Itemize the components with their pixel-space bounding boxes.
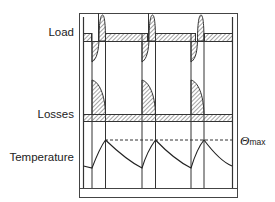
duty-cycle-diagram: Load Losses Temperature Θmax (0, 0, 275, 202)
temperature-label: Temperature (0, 151, 74, 163)
load-row (83, 13, 233, 188)
losses-label: Losses (0, 108, 74, 120)
theta-max-label: Θmax (240, 133, 265, 149)
theta-symbol: Θ (240, 133, 249, 148)
load-label: Load (0, 26, 74, 38)
theta-subscript: max (249, 137, 265, 147)
